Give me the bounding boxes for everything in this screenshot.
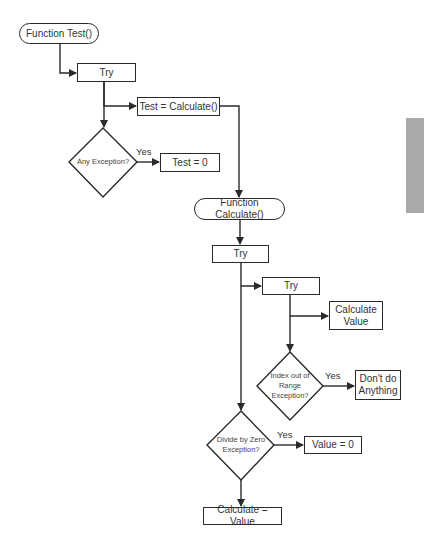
value-zero-box: Value = 0	[304, 436, 362, 454]
calculate-value-box: Calculate Value	[329, 301, 383, 330]
any-exception-yes-label: Yes	[136, 146, 152, 157]
dont-do-anything-box: Don't do Anything	[355, 370, 401, 400]
try-box-2: Try	[212, 245, 269, 263]
any-exception-label: Any Exception?	[76, 148, 130, 176]
calculate-equals-value-box: Calculate = Value	[203, 507, 282, 525]
try-box-1: Try	[77, 63, 136, 82]
divide-exception-yes-label: Yes	[277, 429, 293, 440]
function-test-terminator: Function Test()	[19, 23, 99, 44]
connectors	[0, 0, 424, 547]
index-exception-yes-label: Yes	[325, 370, 341, 381]
test-zero-box: Test = 0	[160, 153, 220, 172]
index-exception-label: Index out of Range Exception?	[264, 368, 316, 404]
divide-exception-label: Divide by Zero Exception?	[212, 432, 270, 458]
try-box-3: Try	[262, 277, 320, 295]
test-calculate-box: Test = Calculate()	[137, 97, 220, 116]
function-calculate-terminator: Function Calculate()	[194, 198, 285, 220]
page-side-tab	[406, 118, 424, 213]
